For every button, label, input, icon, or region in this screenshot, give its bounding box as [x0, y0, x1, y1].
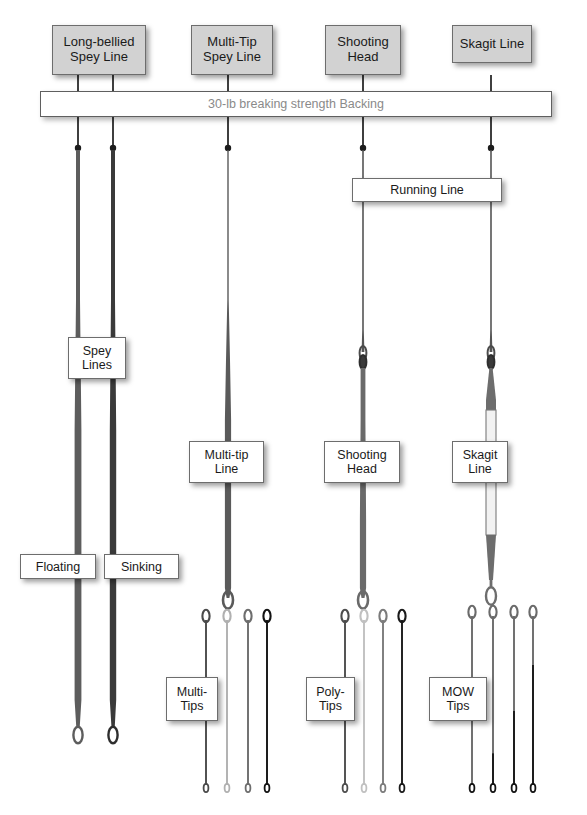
tip-segment-upper	[513, 616, 515, 711]
label-floating[interactable]: Floating	[20, 554, 96, 579]
label-multi-tip-spey-line[interactable]: Multi-Tip Spey Line	[191, 25, 273, 75]
tip-segment	[247, 620, 249, 785]
label-line-1: Multi-	[177, 685, 208, 699]
tip-segment-upper	[532, 616, 534, 665]
tip-loop-bottom	[400, 784, 405, 792]
loop-to-loop-lower	[488, 355, 495, 369]
tip-segment	[401, 620, 403, 785]
backing-bar: 30-lb breaking strength Backing	[40, 91, 552, 117]
label-sinking[interactable]: Sinking	[104, 554, 179, 579]
label-line-1: Floating	[36, 560, 80, 574]
label-skagit-line-top[interactable]: Skagit Line	[452, 25, 532, 63]
multi-tip-line	[223, 150, 233, 609]
label-line-1: Long-bellied	[64, 35, 135, 50]
tip-segment-upper	[492, 616, 494, 753]
tip-loop-bottom	[470, 784, 475, 792]
label-line-1: MOW	[442, 685, 474, 699]
label-line-1: Spey	[83, 344, 112, 358]
label-line-1: Skagit Line	[460, 37, 524, 52]
label-line-2: Line	[468, 462, 492, 476]
tip-loop-bottom	[531, 784, 536, 792]
label-line-2: Tips	[446, 699, 469, 713]
label-skagit-line-segment[interactable]: Skagit Line	[452, 441, 508, 483]
label-line-1: Shooting	[337, 448, 386, 462]
label-line-2: Head	[347, 462, 377, 476]
tip-segment-lower	[532, 665, 534, 785]
label-line-1: Sinking	[121, 560, 162, 574]
tip-loop-bottom	[265, 784, 270, 792]
tip-loop-bottom	[512, 784, 517, 792]
label-spey-lines[interactable]: Spey Lines	[68, 337, 126, 379]
tip-loop-bottom	[225, 784, 230, 792]
backing-drop-lines	[78, 75, 491, 92]
label-line-2: Lines	[82, 358, 112, 372]
tip-segment	[382, 620, 384, 785]
tip-loop-bottom	[246, 784, 251, 792]
label-line-1: Multi-tip	[205, 448, 249, 462]
label-line-2: Spey Line	[203, 50, 261, 65]
label-line-1: Poly-	[316, 685, 344, 699]
label-line-2: Head	[347, 50, 378, 65]
line-graphics-layer	[0, 0, 587, 815]
label-shooting-head-top[interactable]: Shooting Head	[325, 25, 401, 75]
skagit-rear-taper	[486, 535, 496, 580]
tip-loop-bottom	[491, 784, 496, 792]
tip-loop-bottom	[343, 784, 348, 792]
label-line-1: Multi-Tip	[207, 35, 256, 50]
label-line-1: Running Line	[390, 183, 464, 197]
sinking-spey-line	[108, 150, 117, 743]
label-line-1: Shooting	[337, 35, 388, 50]
tip-segment	[363, 620, 365, 785]
label-line-2: Tips	[319, 699, 342, 713]
tip-loop-bottom	[381, 784, 386, 792]
tip-segment	[266, 620, 268, 785]
loop-to-loop-lower	[360, 355, 367, 369]
label-line-1: Skagit	[463, 448, 498, 462]
tip-segment-lower	[492, 753, 494, 785]
floating-spey-line	[73, 150, 82, 743]
label-shooting-head-segment[interactable]: Shooting Head	[324, 441, 400, 483]
skagit-front-taper	[486, 368, 496, 410]
backing-label: 30-lb breaking strength Backing	[208, 97, 384, 111]
spey-line-diagram: 30-lb breaking strength Backing Long-bel…	[0, 0, 587, 815]
tip-segment	[226, 620, 228, 785]
tip-segment-lower	[513, 711, 515, 785]
tip-loop-bottom	[204, 784, 209, 792]
knot-dots	[75, 145, 494, 151]
label-running-line[interactable]: Running Line	[352, 178, 502, 202]
label-multi-tip-line[interactable]: Multi-tip Line	[189, 441, 264, 483]
backing-to-knot-lines	[78, 116, 491, 148]
label-line-2: Tips	[180, 699, 203, 713]
label-poly-tips[interactable]: Poly- Tips	[306, 677, 355, 721]
label-long-bellied-spey-line[interactable]: Long-bellied Spey Line	[52, 25, 146, 75]
label-multi-tips[interactable]: Multi- Tips	[166, 677, 218, 721]
label-mow-tips[interactable]: MOW Tips	[429, 677, 487, 721]
label-line-2: Line	[215, 462, 239, 476]
shooting-head-system	[358, 150, 368, 609]
tip-loop-bottom	[362, 784, 367, 792]
skagit-line-system	[486, 150, 496, 605]
label-line-2: Spey Line	[70, 50, 128, 65]
